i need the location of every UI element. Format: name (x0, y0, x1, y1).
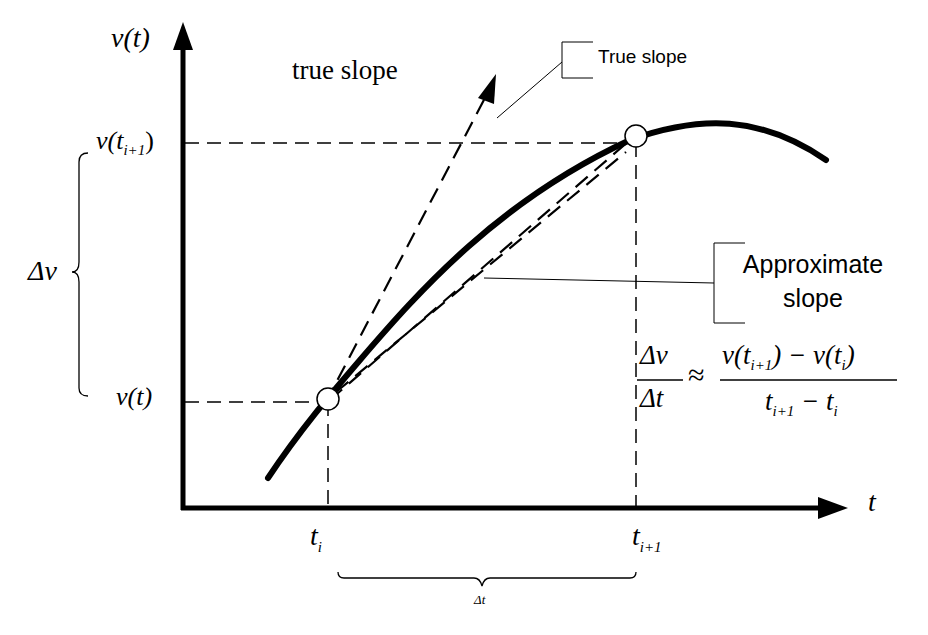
t-i-main: t (310, 520, 318, 551)
formula-rhs-denominator: ti+1 − ti (765, 386, 838, 420)
v-ti1-label: v(ti+1) (96, 126, 154, 159)
x-axis-arrow-icon (818, 497, 848, 519)
t-i1-label: ti+1 (632, 520, 662, 556)
formula-rhs-numerator: v(ti+1) − v(ti) (722, 340, 855, 374)
true-slope-heading: true slope (292, 55, 398, 86)
formula-approx-sign: ≈ (688, 358, 704, 392)
x-axis-label: t (868, 486, 876, 518)
t-i-label: ti (310, 520, 322, 556)
true-slope-callout-label: True slope (598, 46, 687, 68)
y-axis-label: v(t) (111, 22, 150, 54)
slope-diagram (0, 0, 928, 635)
formula-lhs-numerator: Δv (640, 340, 668, 371)
true-slope-tangent (326, 74, 496, 402)
v-ti1-sub: i+1 (123, 142, 145, 158)
true-slope-callout (497, 42, 593, 118)
v-ti1-close: ) (145, 126, 154, 155)
guide-lines (185, 143, 636, 508)
v-ti1-main: v(t (96, 126, 123, 155)
y-axis-arrow-icon (173, 22, 193, 50)
delta-v-brace (72, 153, 88, 396)
approximate-slope-line1: Approximate (718, 247, 908, 281)
approximate-slope-line2: slope (718, 281, 908, 315)
point-ti (317, 388, 339, 410)
y-axis (173, 22, 193, 510)
delta-t-label: Δt (474, 592, 485, 608)
approximate-slope-label: Approximate slope (718, 247, 908, 315)
t-i1-main: t (632, 520, 640, 551)
x-axis (181, 497, 848, 519)
point-ti1 (625, 125, 647, 147)
delta-t-brace (338, 572, 636, 586)
tangent-arrow-icon (478, 74, 496, 104)
approximate-slope-secant (330, 140, 630, 400)
formula-lhs-denominator: Δt (640, 383, 663, 414)
t-i-sub: i (318, 539, 322, 555)
t-i1-sub: i+1 (640, 539, 662, 555)
approximate-slope-callout (484, 243, 745, 323)
v-t-label: v(t) (116, 382, 152, 412)
delta-v-label: Δv (28, 255, 57, 287)
